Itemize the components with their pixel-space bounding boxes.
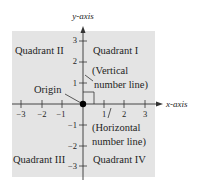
y-tick-label: 2: [73, 56, 77, 66]
horizontal-number-line-label-1: (Horizontal: [92, 122, 140, 134]
coordinate-plane-diagram: −3 −2 −1 1 2 3 3 2 1 −1 −2 −3 y-axis x-a…: [0, 0, 201, 187]
y-tick-label: −1: [68, 120, 77, 130]
x-tick-label: −2: [37, 109, 46, 119]
y-tick-label: 1: [73, 78, 77, 88]
x-tick-label: 1: [102, 109, 106, 119]
quadrant-iv-label: Quadrant IV: [93, 154, 146, 165]
horizontal-number-line-label-2: number line): [92, 136, 146, 148]
vertical-number-line-label-2: number line): [94, 79, 148, 91]
origin-label: Origin: [34, 84, 62, 95]
y-tick-label: 3: [73, 35, 77, 45]
vertical-number-line-label-1: (Vertical: [92, 65, 128, 77]
x-axis-label: x-axis: [165, 99, 188, 109]
x-tick-label: 3: [143, 109, 147, 119]
x-tick-label: −1: [56, 109, 65, 119]
x-tick-label: 2: [122, 109, 126, 119]
x-tick-label: −3: [16, 109, 25, 119]
origin-dot: [80, 101, 86, 107]
y-axis-arrow-icon: [81, 26, 86, 33]
y-tick-label: −2: [68, 141, 77, 151]
y-tick-label: −3: [68, 161, 77, 171]
quadrant-ii-label: Quadrant II: [15, 45, 64, 56]
quadrant-iii-label: Quadrant III: [13, 154, 66, 165]
y-axis-label: y-axis: [71, 11, 94, 21]
quadrant-i-label: Quadrant I: [93, 45, 139, 56]
x-axis-arrow-icon: [156, 102, 163, 107]
